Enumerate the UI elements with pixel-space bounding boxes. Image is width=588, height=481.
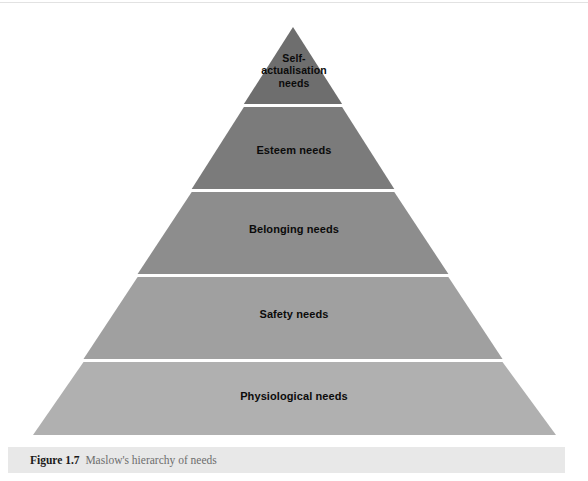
figure-caption-label: Figure 1.7 bbox=[30, 454, 80, 466]
figure-caption-bar: Figure 1.7 Maslow's hierarchy of needs bbox=[8, 447, 565, 473]
pyramid-tier-belonging bbox=[138, 192, 449, 274]
pyramid-tier-esteem bbox=[192, 107, 395, 189]
figure-caption-title: Maslow's hierarchy of needs bbox=[85, 454, 216, 466]
figure-caption: Figure 1.7 Maslow's hierarchy of needs bbox=[8, 454, 217, 466]
pyramid-graphic bbox=[0, 0, 588, 445]
pyramid-tier-physiological bbox=[33, 362, 556, 435]
maslow-pyramid-figure: Self- actualisation needs Esteem needs B… bbox=[0, 0, 588, 445]
pyramid-tier-safety bbox=[84, 277, 503, 359]
pyramid-tier-self-actualisation bbox=[244, 27, 342, 104]
